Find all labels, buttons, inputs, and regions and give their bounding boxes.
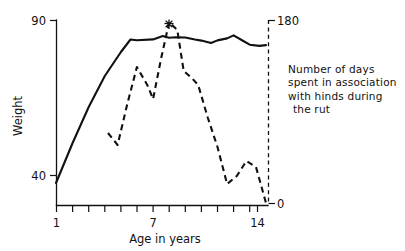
left-axis-tick-label-top: 90 (31, 14, 46, 28)
chart-canvas: 90 40 Weight 1 (0, 0, 405, 251)
days-with-hinds-curve (108, 22, 266, 203)
right-axis-tick-label-bottom: 0 (277, 197, 284, 211)
chart-figure: 90 40 Weight 1 (0, 0, 405, 251)
x-axis-group: 1 7 14 Age in years (53, 206, 268, 247)
x-axis-title: Age in years (129, 232, 201, 246)
note-line-4: the rut (288, 103, 397, 116)
right-axis-note: Number of days spent in association with… (288, 63, 397, 117)
x-axis-tick-label-last: 14 (250, 216, 265, 230)
note-line-1: Number of days (288, 63, 397, 76)
right-axis-tick-label-top: 180 (277, 14, 299, 28)
x-axis-ticks (57, 206, 258, 213)
left-axis-group: 90 40 Weight (11, 14, 57, 206)
x-axis-tick-label-mid: 7 (149, 216, 156, 230)
note-line-2: spent in association (288, 76, 397, 89)
x-axis-tick-label-first: 1 (53, 216, 60, 230)
peak-asterisk-marker (165, 20, 174, 30)
note-line-3: with hinds during (288, 90, 397, 103)
y-axis-title: Weight (11, 95, 25, 136)
left-axis-tick-label-bottom: 40 (31, 169, 46, 183)
